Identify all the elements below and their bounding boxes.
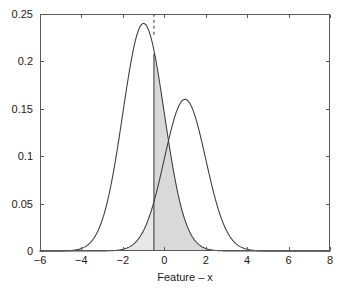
false-negative-area (154, 50, 330, 251)
x-axis-label: Feature – x (157, 271, 213, 283)
class-1-density-curve (40, 23, 330, 251)
ytick-label-0: 0 (0, 246, 33, 257)
figure-container: 0 0.05 0.1 0.15 0.2 0.25 −6 −4 −2 0 2 4 … (0, 0, 345, 291)
axes (41, 15, 331, 252)
ytick-label-005: 0.05 (0, 198, 33, 209)
xtick-label-0: 0 (161, 255, 167, 266)
xtick-label-minus6: −6 (34, 255, 47, 266)
ytick-label-02: 0.2 (0, 56, 33, 67)
density-curves (40, 23, 330, 251)
plot-frame (41, 15, 330, 251)
ytick-label-015: 0.15 (0, 103, 33, 114)
xtick-label-2: 2 (203, 255, 209, 266)
xtick-label-4: 4 (244, 255, 250, 266)
xtick-label-8: 8 (327, 255, 333, 266)
ytick-label-025: 0.25 (0, 9, 33, 20)
false-positive-area (40, 202, 154, 251)
xtick-label-minus2: −2 (117, 255, 130, 266)
ytick-label-01: 0.1 (0, 151, 33, 162)
axis-ticks (41, 15, 331, 252)
xtick-label-minus4: −4 (75, 255, 88, 266)
density-plot (0, 0, 345, 291)
xtick-label-6: 6 (286, 255, 292, 266)
